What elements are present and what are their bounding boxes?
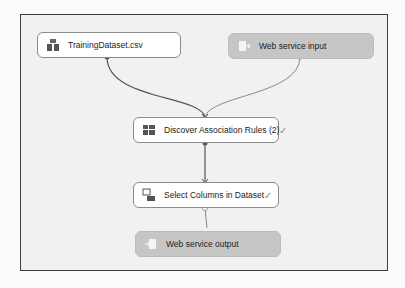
node-label: Web service output <box>166 239 280 249</box>
node-label: TrainingDataset.csv <box>68 40 180 50</box>
node-select-columns[interactable]: Select Columns in Dataset ✓ <box>133 182 279 208</box>
node-web-service-output[interactable]: Web service output <box>135 231 281 257</box>
node-discover-association-rules[interactable]: Discover Association Rules (2) ✓ <box>133 117 279 143</box>
node-training-dataset[interactable]: TrainingDataset.csv <box>37 32 181 58</box>
node-web-service-input[interactable]: Web service input <box>228 33 374 59</box>
status-check-icon: ✓ <box>264 190 272 201</box>
dataset-icon <box>46 38 60 52</box>
web-service-input-icon <box>237 39 251 53</box>
node-label: Select Columns in Dataset <box>164 190 264 200</box>
grid-module-icon <box>142 123 156 137</box>
node-label: Discover Association Rules (2) <box>164 125 279 135</box>
node-label: Web service input <box>259 41 373 51</box>
status-check-icon: ✓ <box>279 125 287 136</box>
web-service-output-icon <box>144 237 158 251</box>
select-columns-icon <box>142 188 156 202</box>
